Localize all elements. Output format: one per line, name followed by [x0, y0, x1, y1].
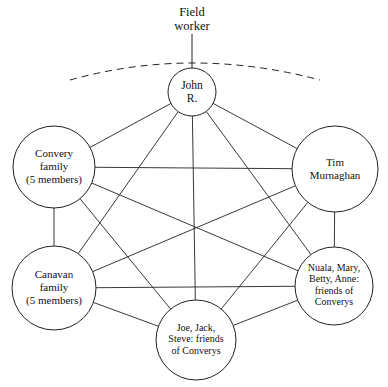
edge-canavan-family-to-joe-group — [93, 302, 158, 326]
edge-john-r-to-tim-murnaghan — [213, 103, 297, 148]
node-nuala-group[interactable]: Nuala, Mary,Betty, Anne:friends ofConver… — [295, 247, 373, 325]
sociogram-diagram: JohnR.Converyfamily(5 members)TimMurnagh… — [0, 0, 388, 387]
edge-nuala-group-to-joe-group — [233, 300, 297, 325]
nodes-layer: JohnR.Converyfamily(5 members)TimMurnagh… — [12, 68, 378, 380]
sociogram-canvas: JohnR.Converyfamily(5 members)TimMurnagh… — [0, 0, 388, 387]
caption-layer: Fieldworker — [174, 5, 210, 33]
edge-john-r-to-joe-group — [192, 116, 195, 300]
node-john-r[interactable]: JohnR. — [168, 68, 216, 116]
edge-tim-murnaghan-to-joe-group — [221, 202, 308, 309]
node-joe-group[interactable]: Joe, Jack,Steve: friendsof Converys — [156, 300, 236, 380]
edge-john-r-to-convery-family — [90, 103, 171, 147]
field-worker-caption: Fieldworker — [174, 5, 210, 33]
node-convery-family[interactable]: Converyfamily(5 members) — [13, 126, 95, 208]
node-canavan-family[interactable]: Canavanfamily(5 members) — [12, 246, 96, 330]
node-tim-murnaghan[interactable]: TimMurnaghan — [292, 126, 378, 212]
node-label-nuala-group: Nuala, Mary,Betty, Anne:friends ofConver… — [308, 262, 360, 308]
edge-john-r-to-canavan-family — [78, 112, 178, 254]
